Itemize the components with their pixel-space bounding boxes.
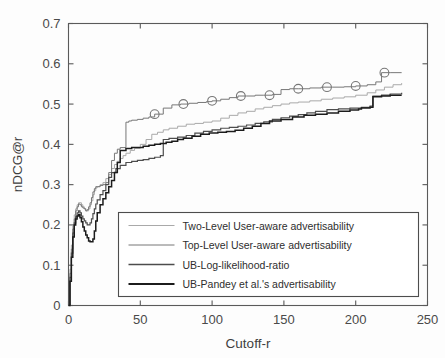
ndcg-line-chart: 05010015020025000.10.20.30.40.50.60.7Cut… — [0, 0, 445, 358]
chart-figure: 05010015020025000.10.20.30.40.50.60.7Cut… — [0, 0, 445, 358]
x-tick-label: 0 — [65, 312, 72, 327]
x-tick-label: 50 — [133, 312, 147, 327]
x-tick-label: 250 — [417, 312, 439, 327]
legend-label-2: UB-Log-likelihood-ratio — [183, 259, 290, 271]
x-axis-title: Cutoff-r — [226, 336, 271, 351]
y-tick-label: 0 — [53, 298, 60, 313]
y-tick-label: 0.6 — [42, 56, 60, 71]
legend-label-3: UB-Pandey et al.'s advertisability — [183, 278, 337, 290]
x-tick-label: 150 — [273, 312, 295, 327]
x-tick-label: 100 — [201, 312, 223, 327]
x-tick-label: 200 — [345, 312, 367, 327]
y-tick-label: 0.1 — [42, 258, 60, 273]
y-tick-label: 0.7 — [42, 16, 60, 31]
y-tick-label: 0.3 — [42, 177, 60, 192]
legend-label-0: Two-Level User-aware advertisability — [183, 220, 355, 232]
y-axis-title: nDCG@r — [10, 136, 25, 192]
y-tick-label: 0.4 — [42, 137, 60, 152]
y-tick-label: 0.5 — [42, 97, 60, 112]
legend-label-1: Top-Level User-aware advertisability — [183, 239, 353, 251]
y-tick-label: 0.2 — [42, 217, 60, 232]
